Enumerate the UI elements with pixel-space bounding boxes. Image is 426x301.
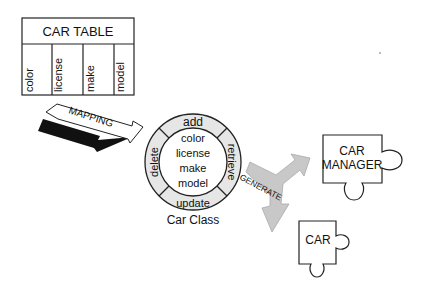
method-delete: delete: [148, 147, 160, 177]
car-table: CAR TABLE color license make model: [22, 18, 134, 95]
car-manager-piece: CAR MANAGER: [322, 135, 402, 200]
method-update: update: [176, 197, 210, 209]
class-caption: Car Class: [167, 213, 220, 227]
puzzle-piece-outline: [299, 221, 349, 277]
method-retrieve: retrieve: [226, 144, 238, 181]
car-table-title: CAR TABLE: [42, 24, 113, 39]
car-piece: CAR: [299, 221, 349, 277]
attribute-license: license: [176, 147, 210, 159]
attribute-make: make: [180, 162, 207, 174]
diagram-canvas: CAR TABLE color license make model MAPPI…: [0, 0, 426, 301]
table-column-make: make: [84, 65, 96, 92]
car-manager-line1: CAR: [339, 144, 365, 158]
attribute-color: color: [181, 132, 205, 144]
car-class: add update delete retrieve color license…: [145, 114, 241, 227]
generate-arrow: GENERATE: [238, 154, 310, 232]
mapping-arrow: MAPPING: [38, 104, 143, 152]
table-column-license: license: [52, 58, 64, 92]
attribute-model: model: [178, 177, 208, 189]
speck: [379, 52, 381, 54]
table-column-model: model: [114, 62, 126, 92]
method-add: add: [183, 115, 203, 129]
car-manager-line2: MANAGER: [322, 158, 383, 172]
table-column-color: color: [23, 68, 35, 92]
car-label: CAR: [305, 233, 331, 247]
